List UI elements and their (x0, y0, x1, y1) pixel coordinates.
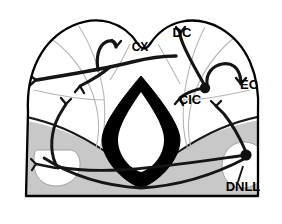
dnll-soma (240, 149, 251, 160)
label-dnll: DNLL (226, 179, 261, 194)
label-cx: CX (132, 40, 149, 54)
cic-soma (200, 83, 210, 93)
label-cic: CIC (179, 92, 202, 107)
label-ec: EC (240, 77, 259, 92)
label-dc: DC (173, 25, 192, 40)
inferior-colliculus-diagram: CX DC EC CIC DNLL (0, 0, 282, 224)
anatomical-figure: CX DC EC CIC DNLL (0, 0, 282, 224)
